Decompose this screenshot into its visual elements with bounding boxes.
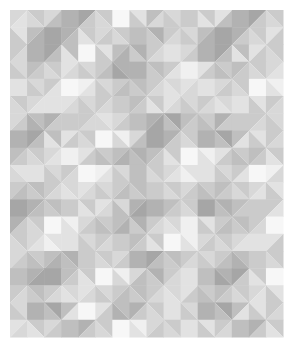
geometric-pattern-canvas (0, 0, 293, 347)
artwork-root: Geometric Grayscale Quilt Pattern Abstra… (0, 0, 293, 347)
